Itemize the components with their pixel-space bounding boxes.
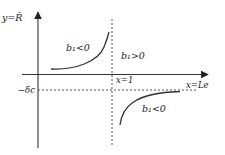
region-label-upper-right: b₁>0	[121, 50, 145, 61]
y-axis-label: y=R̄	[1, 12, 22, 23]
region-label-lower-right: b₁<0	[142, 103, 166, 114]
hyperbola-diagram: y=R̄ x=Le x=1 −δc b₁<0 b₁>0 b₁<0	[0, 0, 225, 155]
region-label-upper-left: b₁<0	[66, 42, 90, 53]
x-axis-label: x=Le	[186, 80, 209, 90]
horizontal-asymptote-label: −δc	[18, 85, 35, 95]
vertical-asymptote-label: x=1	[116, 75, 133, 85]
